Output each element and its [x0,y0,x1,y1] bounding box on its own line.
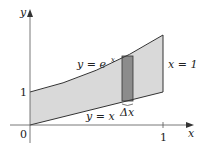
x-tick-label: 1 [160,131,167,144]
x-axis-label: x [188,127,195,140]
y-axis-arrow-icon [27,9,33,17]
curve-exp-exponent: x [111,56,115,64]
origin-label: 0 [20,128,27,141]
diagram-canvas: y x 0 1 1 y = e x y = x x = 1 Δx [0,0,207,154]
y-tick-label: 1 [20,86,27,99]
curve-exp-label: y = e [76,58,106,71]
delta-x-strip [122,56,133,101]
line-y-equals-x-label: y = x [85,110,115,123]
delta-x-label: Δx [119,106,135,119]
y-axis-label: y [19,6,27,19]
line-x-equals-1-label: x = 1 [168,58,197,71]
